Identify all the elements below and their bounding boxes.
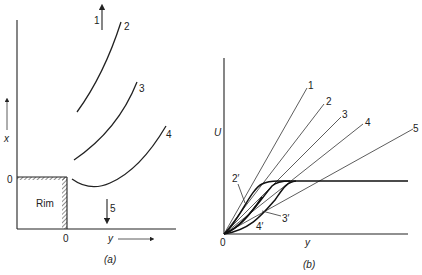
panel-a-y-axis-label: y — [107, 233, 114, 244]
profile-3-prime-label: 3′ — [282, 213, 290, 224]
profile-2-prime-label: 2′ — [232, 173, 240, 184]
streamline-4 — [72, 126, 166, 187]
panel-b-y-axis-label: y — [304, 237, 311, 248]
figure: Rim 0 0 x y 1 2 3 4 5 (a) U 0 y — [0, 0, 422, 275]
panel-b-caption: (b) — [303, 259, 315, 270]
panel-a: Rim 0 0 x y 1 2 3 4 5 (a) — [3, 7, 176, 265]
streamline-5-label: 5 — [110, 203, 116, 214]
line-2-label: 2 — [326, 96, 332, 107]
velocity-profile-2 — [224, 181, 408, 234]
profile-2-prime-leader — [238, 184, 245, 203]
line-3-label: 3 — [342, 109, 348, 120]
panel-b-origin-label: 0 — [220, 237, 226, 248]
line-1-label: 1 — [308, 80, 314, 91]
streamline-2-label: 2 — [124, 21, 130, 32]
streamline-2 — [77, 22, 121, 112]
line-4 — [224, 124, 363, 234]
origin-x-label: 0 — [7, 174, 13, 185]
panel-a-x-axis-label: x — [3, 133, 10, 144]
streamline-1-label: 1 — [94, 15, 100, 26]
streamline-3-label: 3 — [139, 83, 145, 94]
profile-3-prime-leader — [262, 211, 281, 216]
panel-b: U 0 y 1 2 3 4 5 2′ 3′ 4′ (b) — [214, 58, 419, 270]
profile-4-prime-label: 4′ — [256, 221, 264, 232]
panel-b-u-axis-label: U — [214, 127, 222, 138]
rim-label: Rim — [36, 198, 54, 209]
line-5-label: 5 — [413, 123, 419, 134]
origin-y-label: 0 — [63, 233, 69, 244]
panel-a-caption: (a) — [104, 254, 116, 265]
streamline-4-label: 4 — [166, 129, 172, 140]
streamline-3 — [74, 82, 137, 160]
line-4-label: 4 — [365, 117, 371, 128]
